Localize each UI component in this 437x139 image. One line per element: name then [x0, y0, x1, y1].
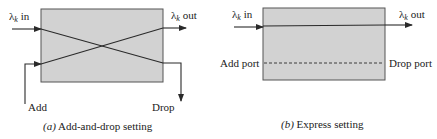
- label-in-b: λk in: [232, 8, 253, 22]
- switch-box-b: [263, 8, 385, 80]
- caption-a: (a) Add-and-drop setting: [43, 120, 153, 133]
- label-drop-port: Drop port: [389, 57, 432, 69]
- label-out-a: λk out: [171, 9, 197, 23]
- diagram-canvas: λk in λk out Add Drop (a) Add-and-drop s…: [0, 0, 437, 139]
- add-arrow: [25, 64, 41, 104]
- label-out-b: λk out: [399, 8, 425, 22]
- caption-b: (b) Express setting: [281, 118, 364, 131]
- label-add: Add: [28, 101, 47, 113]
- label-in-a: λk in: [9, 10, 30, 24]
- figure-add-drop: λk in λk out Add Drop (a) Add-and-drop s…: [9, 9, 197, 133]
- label-drop: Drop: [152, 101, 175, 113]
- drop-arrow: [163, 63, 181, 101]
- figure-express: λk in λk out Add port Drop port (b) Expr…: [220, 8, 432, 131]
- label-add-port: Add port: [220, 57, 259, 69]
